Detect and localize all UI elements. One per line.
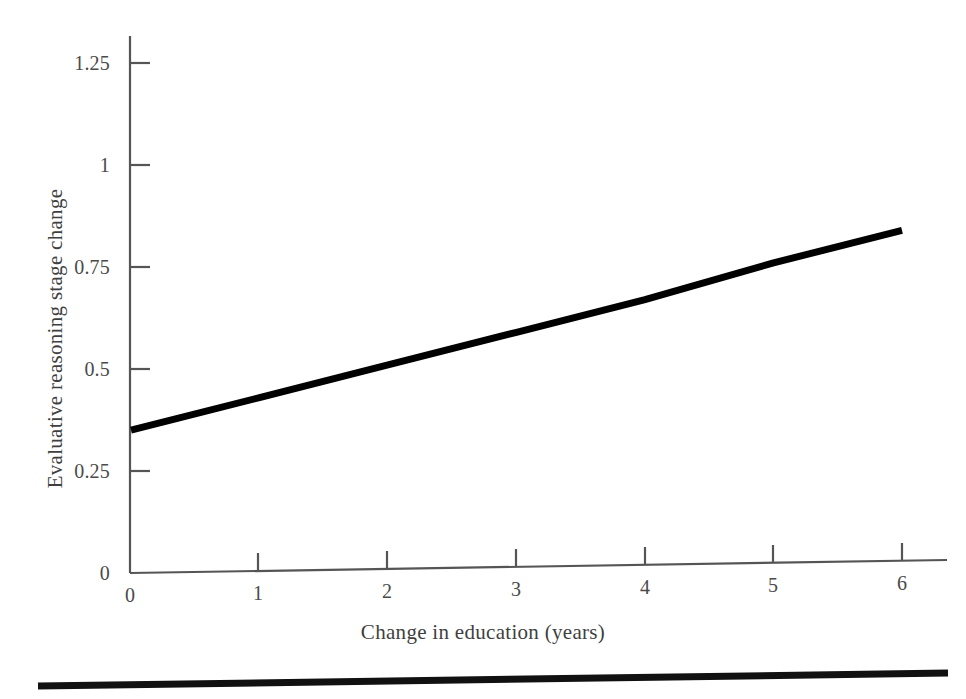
- x-tick-label-1: 1: [253, 582, 263, 605]
- x-tick-label-5: 5: [768, 574, 778, 597]
- y-tick-label-0: 0: [38, 562, 110, 585]
- data-line-evaluative-reasoning: [131, 230, 902, 430]
- y-tick-label-1-25: 1.25: [38, 52, 110, 75]
- y-axis-title: Evaluative reasoning stage change: [43, 129, 68, 549]
- chart-canvas: [0, 0, 966, 699]
- x-tick-label-4: 4: [640, 576, 650, 599]
- x-tick-label-0: 0: [125, 584, 135, 607]
- footer-rule: [38, 673, 948, 686]
- x-axis-line: [130, 560, 947, 573]
- x-axis-title: Change in education (years): [0, 620, 966, 645]
- figure-container: 1.25 1 0.75 0.5 0.25 0 0 1 2 3 4 5 6 Cha…: [0, 0, 966, 699]
- y-axis-ticks: [130, 63, 150, 471]
- x-tick-label-6: 6: [897, 572, 907, 595]
- x-tick-label-3: 3: [511, 578, 521, 601]
- x-tick-label-2: 2: [382, 580, 392, 603]
